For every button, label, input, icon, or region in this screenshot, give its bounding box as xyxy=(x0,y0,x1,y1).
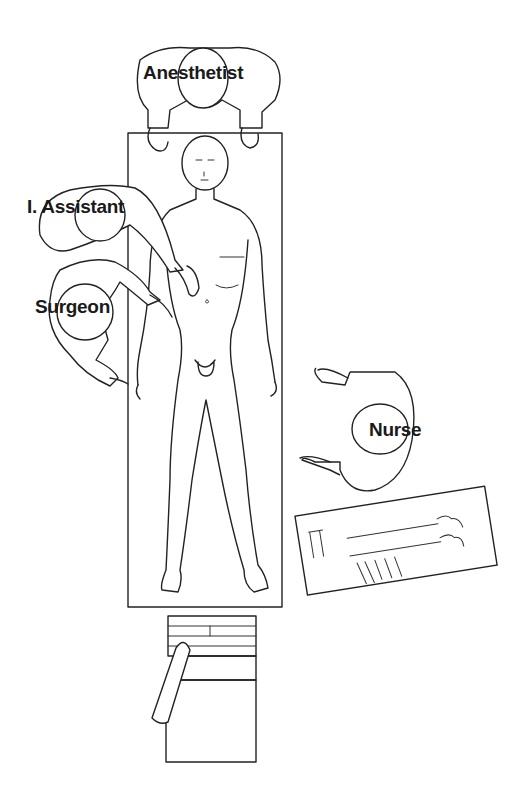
laparoscopy-tower xyxy=(152,616,256,762)
instrument-tray xyxy=(295,486,497,595)
diagram-canvas xyxy=(0,0,511,793)
label-nurse: Nurse xyxy=(369,419,421,441)
label-anesthetist: Anesthetist xyxy=(143,62,243,84)
surgeon-figure xyxy=(49,260,172,386)
or-layout-diagram: Anesthetist I. Assistant Surgeon Nurse xyxy=(0,0,511,793)
label-surgeon: Surgeon xyxy=(35,296,110,318)
label-assistant: I. Assistant xyxy=(27,196,124,218)
patient-figure xyxy=(136,136,276,592)
